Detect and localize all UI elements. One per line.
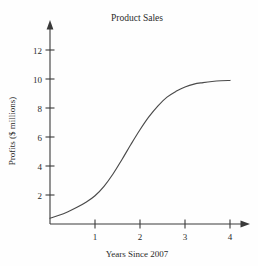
x-tick-label-3: 3	[183, 232, 188, 242]
y-tick-label-2: 2	[38, 191, 43, 201]
x-tick-label-2: 2	[138, 232, 143, 242]
y-tick-label-10: 10	[33, 75, 43, 85]
y-axis-arrow-icon	[47, 20, 54, 30]
y-axis-title: Profits ($ millions)	[7, 97, 17, 166]
x-axis-title: Years Since 2007	[106, 249, 169, 259]
y-axis: 2 4 6 8 10 12 Profits ($ millions)	[7, 20, 55, 224]
y-tick-label-4: 4	[38, 162, 43, 172]
profits-curve	[50, 80, 230, 218]
x-axis: 1 2 3 4 Years Since 2007	[50, 220, 250, 260]
y-tick-label-12: 12	[33, 46, 42, 56]
product-sales-chart: Product Sales 2 4 6 8 10 12 Profits ($ m…	[0, 0, 258, 266]
x-tick-label-1: 1	[93, 232, 98, 242]
x-tick-label-4: 4	[228, 232, 233, 242]
y-tick-label-6: 6	[38, 133, 43, 143]
chart-screenshot: Product Sales 2 4 6 8 10 12 Profits ($ m…	[0, 0, 258, 266]
chart-title: Product Sales	[111, 13, 163, 23]
x-axis-arrow-icon	[241, 221, 251, 228]
y-tick-label-8: 8	[38, 104, 43, 114]
